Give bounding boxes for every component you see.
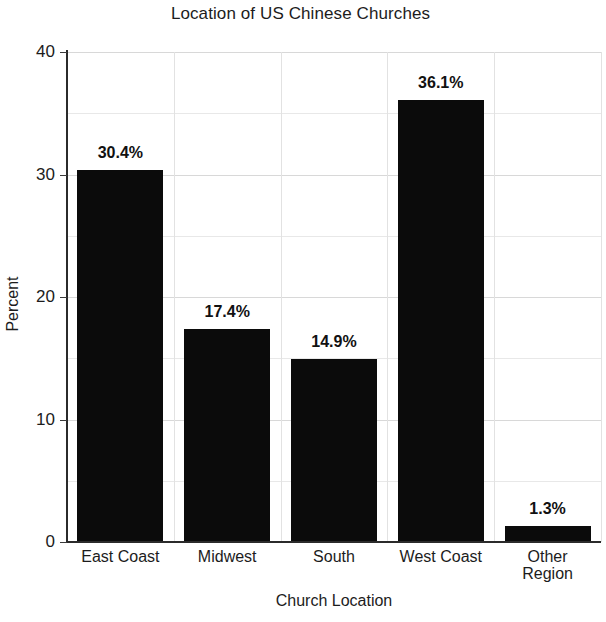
bar[interactable] (77, 170, 163, 542)
gridline-vertical (387, 52, 388, 542)
gridline-vertical (174, 52, 175, 542)
y-axis-tick-mark (60, 175, 67, 176)
y-axis-tick-label: 10 (5, 411, 55, 428)
x-axis-tick-label: West Coast (381, 548, 501, 565)
bar[interactable] (398, 100, 484, 542)
gridline-vertical (601, 52, 602, 542)
plot-area (67, 52, 601, 542)
gridline-horizontal (67, 52, 601, 53)
bar[interactable] (505, 526, 591, 542)
y-axis-tick-mark (60, 542, 67, 543)
x-axis-tick-label-line: South (274, 548, 394, 565)
bar-value-label: 17.4% (167, 303, 287, 321)
y-axis-tick-mark (60, 52, 67, 53)
x-axis-tick-label: Midwest (167, 548, 287, 565)
gridline-horizontal-minor (67, 113, 601, 114)
bar-value-label: 14.9% (274, 333, 394, 351)
gridline-vertical (281, 52, 282, 542)
bar-value-label: 36.1% (381, 74, 501, 92)
y-axis-tick-label: 30 (5, 166, 55, 183)
bar-value-label: 1.3% (488, 500, 606, 518)
chart-title: Location of US Chinese Churches (0, 4, 601, 24)
x-axis-tick-label: OtherRegion (488, 548, 606, 583)
y-axis-tick-mark (60, 420, 67, 421)
x-axis-title: Church Location (67, 592, 601, 610)
y-axis-tick-label: 0 (5, 533, 55, 550)
x-axis-tick-label-line: Midwest (167, 548, 287, 565)
bar-value-label: 30.4% (60, 144, 180, 162)
x-axis-tick-label-line: East Coast (60, 548, 180, 565)
x-axis-tick-label: South (274, 548, 394, 565)
y-axis-tick-label: 40 (5, 43, 55, 60)
y-axis-title: Percent (4, 259, 22, 349)
x-axis-tick-label-line: West Coast (381, 548, 501, 565)
x-axis-line (67, 541, 601, 543)
x-axis-tick-label: East Coast (60, 548, 180, 565)
bar[interactable] (184, 329, 270, 542)
y-axis-tick-mark (60, 297, 67, 298)
gridline-vertical (494, 52, 495, 542)
bar[interactable] (291, 359, 377, 542)
x-axis-tick-label-line: Region (488, 565, 606, 582)
x-axis-tick-label-line: Other (488, 548, 606, 565)
